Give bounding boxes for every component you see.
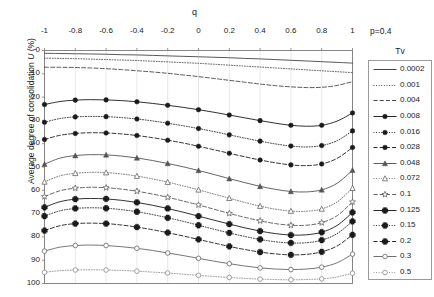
- legend-item[interactable]: 0.1: [369, 186, 431, 202]
- data-marker: [73, 243, 78, 248]
- legend-key: [372, 265, 398, 278]
- data-marker: [319, 219, 325, 225]
- legend-item[interactable]: 0.001: [369, 77, 431, 93]
- data-marker: [165, 121, 170, 126]
- y-tick-label: 10: [8, 68, 40, 77]
- data-marker: [165, 103, 170, 108]
- data-marker: [42, 179, 47, 184]
- data-marker: [350, 145, 355, 150]
- y-tick-label: 0: [8, 45, 40, 54]
- data-marker: [383, 255, 388, 260]
- data-marker: [350, 252, 355, 257]
- data-marker: [257, 218, 263, 224]
- data-marker: [288, 232, 294, 238]
- data-marker: [72, 185, 78, 191]
- data-marker: [319, 249, 325, 255]
- legend-key: [372, 78, 398, 91]
- data-marker: [319, 162, 324, 167]
- data-marker: [103, 196, 109, 202]
- legend-item[interactable]: 0.004: [369, 92, 431, 108]
- data-marker: [257, 237, 263, 243]
- legend[interactable]: 0.00020.0010.0040.0080.0160.0280.0480.07…: [368, 60, 432, 280]
- data-marker: [42, 204, 48, 210]
- data-marker: [72, 221, 78, 227]
- legend-item[interactable]: 0.2: [369, 233, 431, 249]
- data-marker: [41, 193, 47, 199]
- x-tick-label: 0.6: [277, 26, 305, 35]
- data-marker: [135, 117, 140, 122]
- data-marker: [319, 229, 325, 235]
- y-tick-label: 80: [8, 231, 40, 240]
- data-marker: [165, 230, 171, 236]
- data-marker: [227, 275, 232, 280]
- legend-label: 0.001: [398, 80, 420, 89]
- legend-item[interactable]: 0.016: [369, 123, 431, 139]
- x-tick-label: -0.2: [154, 26, 182, 35]
- data-marker: [258, 118, 263, 123]
- data-marker: [165, 194, 171, 200]
- data-marker: [227, 113, 232, 118]
- data-marker: [135, 269, 140, 274]
- data-marker: [258, 266, 263, 271]
- data-marker: [257, 249, 263, 255]
- data-marker: [73, 98, 78, 103]
- x-tick-label: 0.4: [246, 26, 274, 35]
- data-marker: [196, 222, 202, 228]
- data-marker: [42, 162, 47, 167]
- data-marker: [383, 270, 388, 275]
- data-marker: [257, 228, 263, 234]
- data-marker: [72, 196, 78, 202]
- legend-label: 0.048: [398, 158, 420, 167]
- legend-item[interactable]: 0.008: [369, 108, 431, 124]
- data-marker: [42, 137, 47, 142]
- data-marker: [383, 114, 388, 119]
- data-marker: [196, 237, 202, 243]
- data-marker: [134, 188, 140, 194]
- legend-key: [372, 249, 398, 262]
- legend-item[interactable]: 0.5: [369, 264, 431, 280]
- data-marker: [196, 273, 201, 278]
- legend-item[interactable]: 0.048: [369, 155, 431, 171]
- legend-label: 0.5: [398, 267, 411, 276]
- x-tick-label: 1: [339, 26, 367, 35]
- data-marker: [227, 133, 232, 138]
- data-marker: [165, 215, 171, 221]
- data-marker: [350, 129, 355, 134]
- data-marker: [42, 120, 47, 125]
- data-marker: [196, 107, 201, 112]
- y-tick-label: 20: [8, 92, 40, 101]
- data-marker: [42, 228, 48, 234]
- data-marker: [165, 179, 170, 184]
- data-marker: [195, 202, 201, 208]
- data-marker: [196, 187, 201, 192]
- data-marker: [196, 144, 201, 149]
- data-marker: [319, 265, 324, 270]
- legend-item[interactable]: 0.125: [369, 201, 431, 217]
- data-marker: [134, 200, 140, 206]
- data-marker: [134, 224, 140, 230]
- legend-key: [372, 109, 398, 122]
- data-marker: [135, 133, 140, 138]
- legend-label: 0.008: [398, 111, 420, 120]
- data-marker: [288, 240, 294, 246]
- y-tick-label: 70: [8, 208, 40, 217]
- data-marker: [288, 222, 294, 228]
- data-marker: [258, 277, 263, 282]
- data-marker: [350, 111, 355, 116]
- legend-item[interactable]: 0.15: [369, 217, 431, 233]
- data-marker: [104, 131, 109, 136]
- data-marker: [319, 123, 324, 128]
- data-marker: [73, 115, 78, 120]
- y-tick-label: 50: [8, 162, 40, 171]
- data-marker: [226, 210, 232, 216]
- legend-label: 0.016: [398, 127, 420, 136]
- legend-item[interactable]: 0.3: [369, 248, 431, 264]
- legend-item[interactable]: 0.028: [369, 139, 431, 155]
- legend-label: 0.15: [398, 220, 416, 229]
- data-marker: [72, 206, 78, 212]
- legend-item[interactable]: 0.072: [369, 170, 431, 186]
- data-marker: [382, 207, 388, 213]
- data-marker: [42, 270, 47, 275]
- legend-item[interactable]: 0.0002: [369, 61, 431, 77]
- data-marker: [289, 267, 294, 272]
